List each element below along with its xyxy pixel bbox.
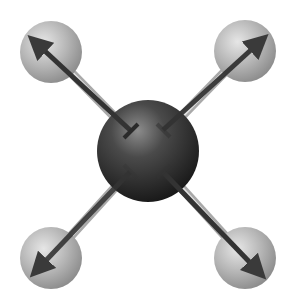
molecule-svg	[0, 0, 288, 305]
dipole-arrow-top-right	[163, 39, 263, 130]
methane-diagram	[0, 0, 288, 305]
dipole-arrow-bottom-left	[35, 172, 130, 272]
dipole-arrow-bottom-right	[163, 172, 261, 274]
